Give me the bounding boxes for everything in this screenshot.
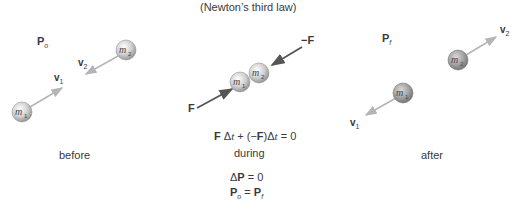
- momentum-conservation-equation: Po = Pf: [230, 186, 263, 200]
- force-f-arrow: [197, 89, 232, 108]
- svg-text:m: m: [15, 106, 22, 117]
- svg-text:m: m: [252, 67, 259, 78]
- svg-text:m: m: [119, 44, 126, 55]
- v1-label-after: v1: [350, 117, 359, 130]
- momentum-initial-label: Po: [37, 35, 48, 49]
- caption-before: before: [59, 149, 90, 161]
- during-panel: m 1 m 2: [197, 47, 302, 108]
- svg-text:m: m: [233, 76, 240, 87]
- caption-during: during: [234, 147, 265, 159]
- v1-arrow-after: [366, 98, 396, 115]
- ball-m2-during: m 2: [249, 63, 269, 83]
- caption-after: after: [421, 149, 443, 161]
- svg-text:m: m: [451, 54, 458, 65]
- delta-p-equation: ΔP = 0: [230, 171, 263, 183]
- ball-m1-after: m 1: [393, 83, 413, 103]
- v2-label-after: v2: [500, 24, 509, 37]
- svg-text:m: m: [396, 87, 403, 98]
- momentum-final-label: Pf: [382, 32, 391, 46]
- ball-m1-during: m 1: [230, 72, 250, 92]
- force-f-label: F: [188, 102, 195, 114]
- v2-arrow-before: [86, 56, 118, 74]
- after-panel: m 1 m 2: [366, 37, 496, 115]
- ball-m1-before: m 1: [12, 102, 32, 122]
- diagram-title: (Newton’s third law): [200, 1, 296, 13]
- ball-m2-before: m 2: [116, 40, 136, 60]
- before-panel: m 1 m 2: [12, 40, 136, 122]
- v2-arrow-after: [466, 37, 496, 55]
- v1-arrow-before: [30, 88, 62, 107]
- v2-label-before: v2: [78, 57, 87, 70]
- impulse-equation: F Δt + (−F)Δt = 0: [214, 130, 296, 142]
- force-neg-f-arrow: [272, 47, 302, 65]
- ball-m2-after: m 2: [448, 50, 468, 70]
- v1-label-before: v1: [54, 72, 63, 85]
- force-neg-f-label: −F: [301, 34, 314, 46]
